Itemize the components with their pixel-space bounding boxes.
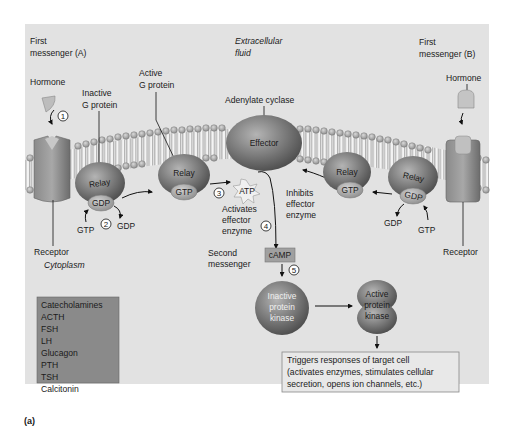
inactive-g-label-2: G protein: [82, 100, 118, 110]
activates-label-3: enzyme: [222, 226, 252, 236]
adenylate-cyclase-label: Adenylate cyclase: [225, 95, 294, 105]
hormone-item: FSH: [41, 324, 58, 334]
svg-text:cAMP: cAMP: [269, 250, 292, 260]
receptor-b-shape: [446, 136, 480, 202]
svg-text:Active: Active: [366, 289, 389, 299]
svg-text:secretion, opens ion channels,: secretion, opens ion channels, etc.): [287, 379, 422, 389]
step-2-badge: 2: [101, 219, 111, 229]
response-box: Triggers responses of target cell (activ…: [282, 352, 459, 392]
hormone-list-box: Catecholamines ACTH FSH LH Glucagon PTH …: [37, 297, 119, 394]
extracellular-label: Extracellular: [235, 36, 283, 46]
svg-text:kinase: kinase: [270, 313, 295, 323]
svg-text:Triggers responses of target c: Triggers responses of target cell: [287, 355, 410, 365]
receptor-a-shape: [34, 136, 70, 202]
inhibits-label-3: enzyme: [286, 210, 316, 220]
camp-box: cAMP: [265, 248, 295, 262]
first-messenger-b-label: First: [419, 37, 436, 47]
svg-text:protein: protein: [269, 302, 295, 312]
inhibits-label-2: effector: [286, 199, 315, 209]
hormone-b-icon: [458, 90, 474, 108]
hormone-a-label: Hormone: [30, 77, 66, 87]
gdp-out-b: GDP: [384, 218, 403, 228]
hormone-item: Catecholamines: [41, 300, 103, 310]
svg-text:Inactive: Inactive: [268, 291, 297, 301]
svg-text:Relay: Relay: [173, 168, 195, 178]
svg-text:Relay: Relay: [336, 167, 358, 177]
first-messenger-b-label-2: messenger (B): [419, 49, 475, 59]
receptor-b-label: Receptor: [443, 247, 478, 257]
active-g-label: Active: [139, 68, 163, 78]
inactive-g-label: Inactive: [82, 88, 112, 98]
svg-text:5: 5: [292, 266, 297, 275]
step-3-badge: 3: [214, 188, 224, 198]
hormone-item: LH: [41, 336, 52, 346]
hormone-item: Glucagon: [41, 348, 78, 358]
svg-text:1: 1: [61, 112, 66, 121]
first-messenger-a-label-2: messenger (A): [30, 48, 86, 58]
active-protein-kinase: Active protein kinase: [357, 280, 397, 334]
svg-text:GDP: GDP: [92, 198, 111, 208]
inhibits-label: Inhibits: [286, 188, 313, 198]
hormone-item: ACTH: [41, 312, 64, 322]
gtp-in-a: GTP: [77, 225, 95, 235]
hormone-item: PTH: [41, 360, 58, 370]
hormone-b-label: Hormone: [446, 73, 482, 83]
receptor-a-label: Receptor: [34, 247, 69, 257]
first-messenger-a-label: First: [30, 36, 47, 46]
cytoplasm-label: Cytoplasm: [44, 260, 85, 270]
svg-text:GTP: GTP: [175, 187, 193, 197]
figure: First messenger (A) Extracellular fluid …: [0, 0, 511, 433]
hormone-item: Calcitonin: [41, 384, 79, 394]
step-5-badge: 5: [289, 265, 299, 275]
svg-text:(activates enzymes, stimulates: (activates enzymes, stimulates cellular: [287, 367, 434, 377]
svg-text:2: 2: [104, 220, 109, 229]
gdp-out-a: GDP: [117, 221, 136, 231]
svg-text:3: 3: [217, 189, 222, 198]
second-messenger-label-2: messenger: [208, 259, 251, 269]
effector-enzyme: Effector: [226, 115, 302, 171]
svg-text:ATP: ATP: [239, 186, 255, 196]
svg-text:protein: protein: [364, 300, 390, 310]
inactive-protein-kinase: Inactive protein kinase: [255, 281, 309, 335]
step-4-badge: 4: [261, 221, 271, 231]
second-messenger-label: Second: [208, 248, 237, 258]
svg-text:kinase: kinase: [365, 311, 390, 321]
gtp-in-b: GTP: [418, 225, 436, 235]
svg-text:4: 4: [264, 222, 269, 231]
figure-caption: (a): [24, 416, 35, 426]
svg-text:Effector: Effector: [250, 138, 279, 148]
activates-label-2: effector: [222, 215, 251, 225]
activates-label: Activates: [222, 204, 257, 214]
hormone-item: TSH: [41, 372, 58, 382]
extracellular-label-2: fluid: [235, 48, 251, 58]
svg-text:GTP: GTP: [341, 185, 359, 195]
active-g-label-2: G protein: [139, 80, 175, 90]
step-1-badge: 1: [58, 111, 68, 121]
